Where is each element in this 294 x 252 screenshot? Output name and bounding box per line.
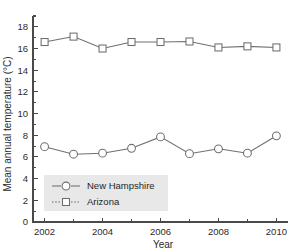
line-chart: 024681012141618 20022004200620082010 New… [0,0,294,252]
x-tick-label: 2008 [208,226,229,237]
chart-figure: 024681012141618 20022004200620082010 New… [0,0,294,252]
data-point-marker [244,43,251,50]
legend-label: Arizona [87,196,120,207]
data-point-marker [41,39,48,46]
series-arizona [41,33,280,52]
data-point-marker [128,144,136,152]
data-point-marker [273,44,280,51]
data-point-marker [215,145,223,153]
x-tick-label: 2004 [92,226,113,237]
data-point-marker [215,44,222,51]
data-point-marker [99,45,106,52]
y-tick-label: 16 [17,43,28,54]
data-point-marker [157,133,165,141]
data-point-marker [157,39,164,46]
data-point-marker [70,33,77,40]
legend-label: New Hampshire [87,180,155,191]
x-tick-label: 2006 [150,226,171,237]
data-series-group [41,33,281,158]
x-axis-tick-labels: 20022004200620082010 [34,226,287,237]
data-point-marker [70,150,78,158]
y-tick-label: 2 [23,195,28,206]
legend-marker-circle [62,182,70,190]
y-tick-label: 4 [23,173,28,184]
data-point-marker [128,39,135,46]
y-axis-title: Mean annual temperature (°C) [2,56,13,191]
data-point-marker [273,132,281,140]
series-new-hampshire [41,132,281,158]
y-tick-label: 0 [23,216,28,227]
data-point-marker [244,149,252,157]
data-point-marker [99,149,107,157]
y-tick-label: 18 [17,21,28,32]
y-tick-label: 14 [17,65,28,76]
y-tick-label: 8 [23,130,28,141]
x-tick-label: 2010 [266,226,287,237]
x-tick-label: 2002 [34,226,55,237]
y-axis-tick-labels: 024681012141618 [17,21,28,227]
x-axis-title: Year [153,239,174,250]
data-point-marker [186,38,193,45]
y-tick-label: 6 [23,151,28,162]
chart-legend: New HampshireArizona [44,175,168,211]
data-point-marker [186,150,194,158]
y-tick-label: 12 [17,86,28,97]
data-point-marker [41,143,49,151]
y-tick-label: 10 [17,108,28,119]
legend-marker-square [63,199,70,206]
